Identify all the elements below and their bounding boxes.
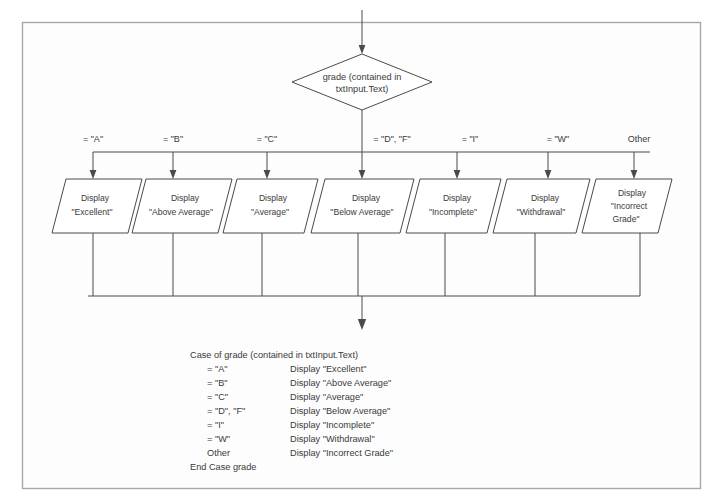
pseudocode-condition-7: Other xyxy=(207,448,230,458)
branch-label-5: = "I" xyxy=(462,134,479,144)
output-box-7: Display "Incorrect Grade" xyxy=(582,179,672,233)
output-box-1: Display "Excellent" xyxy=(52,179,142,233)
output-box-1-line1: Display xyxy=(81,193,110,203)
pseudocode-header: Case of grade (contained in txtInput.Tex… xyxy=(190,350,358,360)
pseudocode-condition-3: = "C" xyxy=(207,392,228,402)
output-box-6: Display "Withdrawal" xyxy=(493,179,590,233)
output-box-7-line1: Display xyxy=(618,188,647,198)
pseudocode-action-1: Display "Excellent" xyxy=(290,364,366,374)
pseudocode-action-7: Display "Incorrect Grade" xyxy=(290,448,393,458)
output-box-5: Display "Incomplete" xyxy=(406,179,501,233)
branch-label-3: = "C" xyxy=(257,134,278,144)
output-box-3-line2: "Average" xyxy=(251,207,289,217)
output-box-2: Display "Above Average" xyxy=(132,179,232,233)
flowchart-figure: grade (contained in txtInput.Text) xyxy=(0,0,721,504)
output-box-6-line2: "Withdrawal" xyxy=(517,207,566,217)
branch-label-6: = "W" xyxy=(547,134,570,144)
output-box-5-line2: "Incomplete" xyxy=(429,207,477,217)
output-box-7-line3: Grade" xyxy=(613,214,640,224)
branch-label-4: = "D", "F" xyxy=(373,134,411,144)
output-box-2-line1: Display xyxy=(171,193,200,203)
output-box-4: Display "Below Average" xyxy=(311,179,414,233)
pseudocode-condition-5: = "I" xyxy=(207,420,224,430)
output-box-4-line2: "Below Average" xyxy=(330,207,393,217)
pseudocode-action-4: Display "Below Average" xyxy=(290,406,390,416)
pseudocode-block: Case of grade (contained in txtInput.Tex… xyxy=(190,350,393,472)
output-box-3: Display "Average" xyxy=(223,179,318,233)
pseudocode-condition-1: = "A" xyxy=(207,364,228,374)
output-box-3-line1: Display xyxy=(259,193,288,203)
pseudocode-action-2: Display "Above Average" xyxy=(290,378,391,388)
decision-label-line1: grade (contained in xyxy=(323,72,402,82)
output-box-6-line1: Display xyxy=(531,193,560,203)
output-box-2-line2: "Above Average" xyxy=(149,207,213,217)
output-box-4-line1: Display xyxy=(352,193,381,203)
pseudocode-action-3: Display "Average" xyxy=(290,392,363,402)
branch-label-1: = "A" xyxy=(83,134,103,144)
pseudocode-action-5: Display "Incomplete" xyxy=(290,420,374,430)
branch-label-7: Other xyxy=(628,134,651,144)
pseudocode-condition-2: = "B" xyxy=(207,378,228,388)
output-box-7-line2: "Incorrect xyxy=(611,201,648,211)
pseudocode-action-6: Display "Withdrawal" xyxy=(290,434,375,444)
decision-label-line2: txtInput.Text) xyxy=(336,84,389,94)
pseudocode-condition-6: = "W" xyxy=(207,434,230,444)
pseudocode-footer: End Case grade xyxy=(190,462,256,472)
pseudocode-condition-4: = "D", "F" xyxy=(207,406,245,416)
output-box-5-line1: Display xyxy=(443,193,472,203)
output-box-1-line2: "Excellent" xyxy=(72,207,113,217)
flowchart-canvas: grade (contained in txtInput.Text) xyxy=(0,0,721,504)
branch-label-2: = "B" xyxy=(163,134,183,144)
